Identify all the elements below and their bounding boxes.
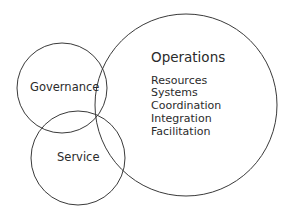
venn-diagram: Governance Service Operations Resources … [0, 0, 285, 216]
operations-list-item: Coordination [151, 100, 225, 113]
operations-item-list: Resources Systems Coordination Integrati… [151, 75, 225, 139]
operations-list-item: Integration [151, 113, 225, 126]
operations-content-block: Operations Resources Systems Coordinatio… [151, 51, 225, 138]
operations-list-item: Facilitation [151, 126, 225, 139]
venn-circles-group [0, 0, 285, 216]
circle-label-governance: Governance [30, 82, 99, 94]
circle-label-service: Service [57, 152, 100, 164]
operations-heading: Operations [151, 51, 225, 65]
